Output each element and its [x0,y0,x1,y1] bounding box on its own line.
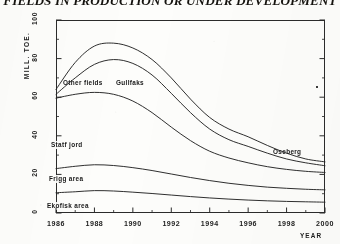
chart-figure: FIELDS IN PRODUCTION OR UNDER DEVELOPMEN… [0,0,340,244]
axis-tick-marks [56,20,325,213]
curve-gullfaks [56,60,325,166]
curve-frigg-area [56,165,325,190]
curve-other-fields [56,43,325,162]
curve-ekofisk-area [56,191,325,203]
scan-artifact-mark [316,86,318,88]
chart-curves-layer [0,0,340,244]
curve-statfjord [56,92,325,172]
data-curves [56,43,325,202]
